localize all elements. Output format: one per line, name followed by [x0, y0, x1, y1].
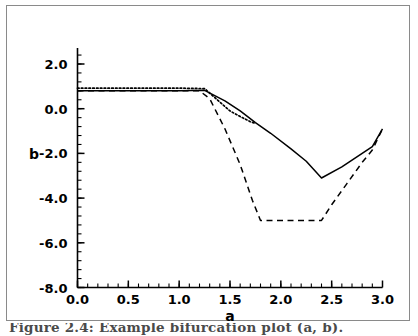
- series-solid-curve: [78, 90, 383, 178]
- figure-caption: Figure 2.4: Example bifurcation plot (a,…: [9, 323, 409, 335]
- x-tick-label: 0.5: [117, 292, 140, 307]
- y-tick-label: -2.0: [39, 146, 67, 161]
- y-axis-title: b: [29, 146, 39, 162]
- y-tick-label: -8.0: [39, 281, 67, 296]
- figure-caption-strip: Figure 2.4: Example bifurcation plot (a,…: [0, 323, 418, 336]
- x-tick-label: 1.0: [168, 292, 191, 307]
- figure-root: 0.00.51.01.52.02.53.02.00.0-2.0-4.0-6.0-…: [0, 0, 418, 336]
- y-tick-label: -4.0: [39, 191, 67, 206]
- y-tick-label: -6.0: [39, 236, 67, 251]
- x-axis-title: a: [225, 308, 234, 324]
- plot-area: 0.00.51.01.52.02.53.02.00.0-2.0-4.0-6.0-…: [29, 48, 394, 324]
- series-dotted-curve: [78, 88, 256, 123]
- x-tick-label: 0.0: [66, 292, 89, 307]
- x-tick-label: 2.0: [269, 292, 292, 307]
- chart-canvas: 0.00.51.01.52.02.53.02.00.0-2.0-4.0-6.0-…: [0, 0, 418, 336]
- y-tick-label: 0.0: [44, 102, 67, 117]
- x-tick-label: 2.5: [320, 292, 343, 307]
- x-tick-label: 3.0: [371, 292, 394, 307]
- x-tick-label: 1.5: [218, 292, 241, 307]
- y-tick-label: 2.0: [44, 57, 67, 72]
